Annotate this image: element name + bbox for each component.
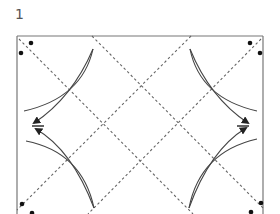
dot-top-left-a xyxy=(29,41,34,46)
dot-bottom-right-b xyxy=(249,210,254,214)
dot-bottom-left-b xyxy=(30,211,35,214)
fold-line-topright-diagonal xyxy=(88,39,261,214)
dot-bottom-right-a xyxy=(259,201,264,206)
fold-line-top-mid-left xyxy=(92,36,263,208)
dot-top-left-b xyxy=(19,51,24,56)
fold-line-topleft-diagonal xyxy=(19,39,193,214)
dot-top-right-a xyxy=(248,41,253,46)
dot-bottom-left-a xyxy=(20,202,25,207)
fold-lines xyxy=(17,36,263,214)
fold-line-top-mid-right xyxy=(17,36,191,210)
dot-top-right-b xyxy=(258,51,263,56)
upper-right-fold-arrow-icon xyxy=(190,49,257,123)
origami-diagram xyxy=(0,0,280,214)
lower-left-fold-arrow-icon xyxy=(26,129,94,208)
upper-left-fold-arrow-icon xyxy=(24,49,93,123)
paper-outline xyxy=(17,36,263,214)
corner-dots xyxy=(19,41,264,214)
